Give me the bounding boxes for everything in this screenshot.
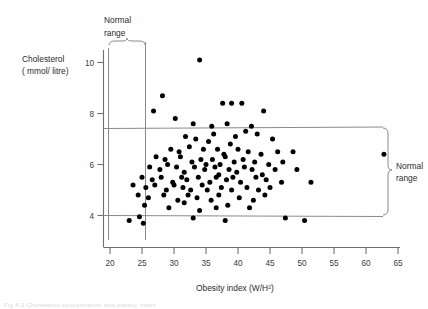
data-point: [229, 188, 234, 193]
data-point: [152, 182, 157, 187]
data-point: [195, 195, 200, 200]
data-point: [260, 172, 265, 177]
data-point: [275, 149, 280, 154]
x-tick-label-60: 60: [361, 259, 371, 268]
data-point: [259, 152, 264, 157]
data-point: [136, 193, 141, 198]
data-point: [196, 175, 201, 180]
data-point: [207, 180, 212, 185]
x-tick-label-20: 20: [105, 259, 115, 268]
data-point: [250, 167, 255, 172]
data-point: [175, 198, 180, 203]
y-tick-label-4: 4: [89, 212, 94, 221]
data-point: [219, 185, 224, 190]
data-point: [252, 159, 257, 164]
x-tick-label-65: 65: [393, 259, 403, 268]
data-point: [223, 218, 228, 223]
x-tick-label-50: 50: [297, 259, 307, 268]
data-point: [200, 182, 205, 187]
data-point: [147, 165, 152, 170]
top-normal-range-label-line2: range: [104, 28, 126, 38]
figure-caption: Fig 4.3 Cholesterol concentration and ob…: [4, 302, 156, 308]
data-point: [214, 175, 219, 180]
data-point: [246, 149, 251, 154]
data-point: [215, 147, 220, 152]
data-point: [191, 216, 196, 221]
data-point: [168, 147, 173, 152]
data-point: [255, 131, 260, 136]
data-point: [256, 188, 261, 193]
data-point: [242, 165, 247, 170]
data-point: [202, 167, 207, 172]
data-point: [237, 195, 242, 200]
data-point: [270, 137, 275, 142]
data-point: [209, 124, 214, 129]
data-point: [302, 218, 307, 223]
data-point: [189, 159, 194, 164]
data-point: [184, 177, 189, 182]
right-normal-range-label-line1: Normal: [396, 161, 423, 171]
x-axis-title: Obesity index (W/H²): [196, 283, 274, 293]
x-axis-tick-labels: 20253035404550556065: [105, 259, 403, 268]
data-point: [183, 134, 188, 139]
data-point: [179, 175, 184, 180]
data-point: [218, 162, 223, 167]
data-point: [225, 203, 230, 208]
data-point: [188, 188, 193, 193]
data-point: [174, 165, 179, 170]
data-point: [381, 152, 386, 157]
x-tick-label-35: 35: [201, 259, 211, 268]
data-point: [186, 193, 191, 198]
data-point: [198, 157, 203, 162]
data-point: [224, 177, 229, 182]
data-point: [206, 139, 211, 144]
data-point: [210, 157, 215, 162]
data-point: [192, 165, 197, 170]
right-normal-range-label-line2: range: [396, 173, 418, 183]
top-normal-range-label-line1: Normal: [104, 15, 131, 25]
y-axis-title-line1: Cholesterol: [22, 54, 65, 64]
data-point: [212, 165, 217, 170]
data-point: [273, 167, 278, 172]
data-point: [247, 205, 252, 210]
data-point: [177, 149, 182, 154]
data-point: [214, 205, 219, 210]
x-axis-ticks: [110, 248, 398, 255]
data-point: [261, 108, 266, 113]
data-point: [142, 203, 147, 208]
data-point: [229, 101, 234, 106]
data-point: [193, 137, 198, 142]
data-point: [279, 180, 284, 185]
scatter-points-group: [127, 57, 387, 225]
data-point: [163, 157, 168, 162]
data-point: [172, 182, 177, 187]
data-point: [266, 162, 271, 167]
x-tick-label-30: 30: [169, 259, 179, 268]
data-point: [227, 167, 232, 172]
data-point: [216, 193, 221, 198]
x-tick-label-55: 55: [329, 259, 339, 268]
data-point: [264, 177, 269, 182]
data-point: [308, 180, 313, 185]
data-point: [137, 214, 142, 219]
data-point: [165, 162, 170, 167]
y-axis-tick-labels: 10 8 6 4: [85, 59, 95, 221]
data-point: [140, 175, 145, 180]
data-point: [238, 180, 243, 185]
y-axis-title-line2: ( mmol/ litre): [22, 66, 69, 76]
data-point: [143, 185, 148, 190]
data-point: [159, 175, 164, 180]
x-tick-label-25: 25: [137, 259, 147, 268]
data-point: [243, 129, 248, 134]
data-point: [294, 167, 299, 172]
x-tick-label-40: 40: [233, 259, 243, 268]
y-tick-label-10: 10: [85, 59, 95, 68]
data-point: [131, 182, 136, 187]
data-point: [182, 200, 187, 205]
data-point: [262, 193, 267, 198]
data-point: [154, 154, 159, 159]
data-point: [157, 167, 162, 172]
data-point: [239, 101, 244, 106]
data-point: [178, 154, 183, 159]
data-point: [150, 177, 155, 182]
